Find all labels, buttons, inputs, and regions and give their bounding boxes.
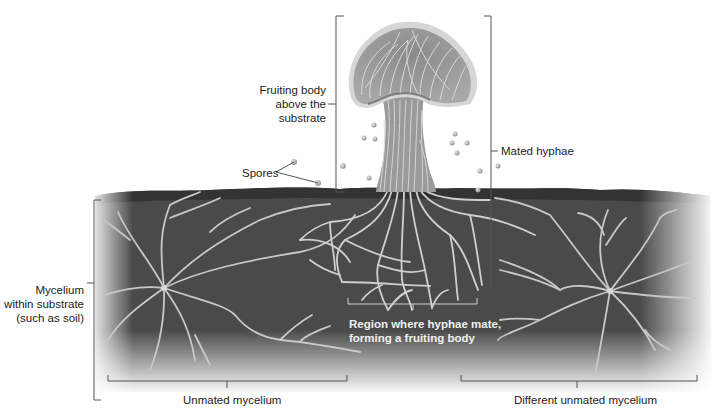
spore — [496, 164, 501, 169]
spore — [465, 141, 470, 146]
spores-leader-1 — [276, 162, 294, 172]
fungus-diagram: Fruiting body above the substrate Spores… — [0, 0, 726, 415]
mating-region-label: Region where hyphae mate, forming a frui… — [349, 317, 501, 345]
spore — [373, 137, 378, 142]
fruiting-body-label-line-1: Fruiting body — [236, 83, 326, 97]
unmated-mycelium-label: Unmated mycelium — [183, 393, 281, 407]
mycelium-label-line-3: (such as soil) — [0, 311, 84, 325]
fruiting-body-label-line-3: substrate — [236, 111, 326, 125]
mycelium-label: Mycelium within substrate (such as soil) — [0, 283, 84, 325]
spore — [367, 176, 372, 181]
spores-leader-2 — [276, 172, 318, 183]
mycelium-label-line-1: Mycelium — [0, 283, 84, 297]
mating-region-label-line-1: Region where hyphae mate, — [349, 317, 501, 331]
fruiting-body-label: Fruiting body above the substrate — [236, 83, 326, 125]
mated-hyphae-label: Mated hyphae — [501, 144, 574, 158]
mycelium-origin-right — [607, 288, 613, 294]
mushroom-cap — [349, 22, 477, 108]
different-unmated-mycelium-label: Different unmated mycelium — [514, 393, 657, 407]
diagram-illustration — [0, 0, 726, 415]
spore — [453, 132, 458, 137]
mycelium-label-line-2: within substrate — [0, 297, 84, 311]
spore — [476, 188, 481, 193]
spore — [450, 141, 455, 146]
spore — [478, 169, 483, 174]
spore — [372, 123, 377, 128]
fruiting-body-label-line-2: above the — [236, 97, 326, 111]
spores-label: Spores — [242, 166, 278, 180]
spore — [340, 163, 346, 169]
mushroom-stalk — [376, 96, 436, 192]
mycelium-origin-left — [161, 285, 167, 291]
spore — [362, 136, 367, 141]
spore — [455, 151, 460, 156]
mating-region-label-line-2: forming a fruiting body — [349, 331, 501, 345]
